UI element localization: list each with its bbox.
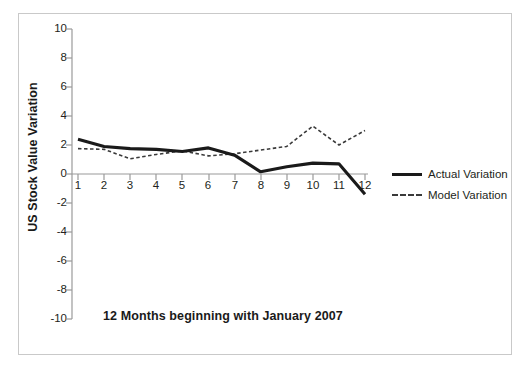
series-model-variation <box>78 126 365 159</box>
x-tick-marks <box>78 174 365 180</box>
legend-item-model-variation: Model Variation <box>392 184 512 205</box>
legend-label: Model Variation <box>428 189 507 201</box>
legend-line-solid-icon <box>392 169 422 179</box>
legend-line-dashed-icon <box>392 190 422 200</box>
series-actual-variation <box>78 139 365 194</box>
legend-label: Actual Variation <box>428 168 508 180</box>
legend-item-actual-variation: Actual Variation <box>392 163 512 184</box>
x-axis-title: 12 Months beginning with January 2007 <box>78 309 368 323</box>
y-axis-title: US Stock Value Variation <box>26 62 40 252</box>
y-tick-marks <box>66 29 72 319</box>
chart-legend: Actual Variation Model Variation <box>392 163 512 205</box>
